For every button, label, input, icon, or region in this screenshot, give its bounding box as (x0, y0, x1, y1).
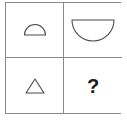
question-mark-placeholder: ? (87, 76, 99, 96)
matrix-cell-bottom-left[interactable] (6, 58, 64, 113)
small-triangle-up-icon (24, 77, 46, 95)
matrix-cell-top-left[interactable] (6, 3, 64, 58)
puzzle-matrix: ? (5, 2, 121, 114)
matrix-cell-bottom-right[interactable]: ? (64, 58, 122, 113)
large-semicircle-flat-top-icon (70, 17, 116, 43)
small-semicircle-flat-bottom-icon (23, 23, 47, 37)
matrix-cell-top-right[interactable] (64, 3, 122, 58)
